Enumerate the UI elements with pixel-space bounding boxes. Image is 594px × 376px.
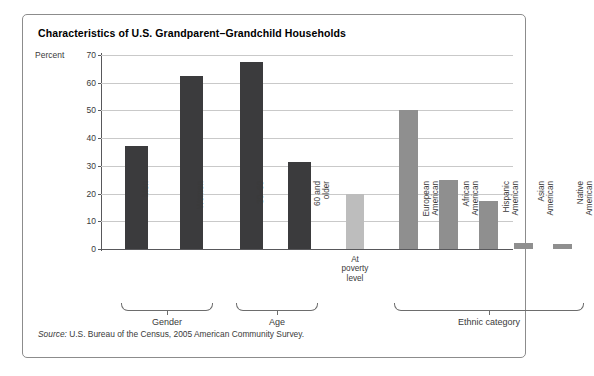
bracket-age bbox=[236, 303, 318, 311]
bar-label: EuropeanAmerican bbox=[422, 181, 441, 251]
group-label-ethnic-category: Ethnic category bbox=[458, 317, 520, 327]
bracket-nub bbox=[489, 310, 490, 315]
gridline-60: 60 bbox=[101, 83, 513, 84]
figure-title: Characteristics of U.S. Grandparent–Gran… bbox=[38, 27, 346, 39]
bar: 30–60 bbox=[240, 62, 263, 249]
y-axis-tickmark-30 bbox=[98, 166, 101, 167]
y-axis-tickmark-70 bbox=[98, 55, 101, 56]
bar-label: 30–60 bbox=[256, 181, 265, 251]
bar-label: HispanicAmerican bbox=[502, 181, 521, 251]
bracket-gender bbox=[121, 303, 213, 311]
bracket-nub bbox=[277, 310, 278, 315]
source-text: U.S. Bureau of the Census, 2005 American… bbox=[67, 329, 304, 339]
y-axis-tick-20: 20 bbox=[87, 189, 96, 199]
gridline-50: 50 bbox=[101, 110, 513, 111]
bar-label: AfricanAmerican bbox=[462, 181, 481, 251]
gridline-0: 0 bbox=[101, 249, 513, 250]
y-axis-tickmark-60 bbox=[98, 83, 101, 84]
bracket-nub bbox=[167, 310, 168, 315]
bar-label: Women bbox=[196, 181, 205, 251]
y-axis-tick-60: 60 bbox=[87, 78, 96, 88]
group-label-age: Age bbox=[269, 317, 285, 327]
group-label-gender: Gender bbox=[152, 317, 182, 327]
bar: AsianAmerican bbox=[514, 243, 533, 249]
gridline-70: 70 bbox=[101, 55, 513, 56]
bar: Atpovertylevel bbox=[346, 194, 364, 249]
y-axis-tick-30: 30 bbox=[87, 161, 96, 171]
y-axis-tickmark-50 bbox=[98, 110, 101, 111]
bar: AfricanAmerican bbox=[439, 180, 458, 249]
bar: HispanicAmerican bbox=[479, 201, 498, 250]
figure-panel: Characteristics of U.S. Grandparent–Gran… bbox=[22, 14, 526, 358]
bar-label: Atpovertylevel bbox=[329, 255, 381, 283]
bar-label: 60 andolder bbox=[313, 181, 332, 251]
bar: Women bbox=[180, 76, 203, 249]
bar: Men bbox=[125, 146, 148, 249]
bar: NativeAmerican bbox=[553, 244, 572, 249]
source-prefix: Source: bbox=[38, 329, 67, 339]
bar: 60 andolder bbox=[288, 162, 311, 249]
source-note: Source: U.S. Bureau of the Census, 2005 … bbox=[38, 329, 304, 339]
y-axis-tick-70: 70 bbox=[87, 50, 96, 60]
y-axis-tick-50: 50 bbox=[87, 105, 96, 115]
y-axis-tick-10: 10 bbox=[87, 216, 96, 226]
y-axis-tickmark-10 bbox=[98, 221, 101, 222]
bar-label: AsianAmerican bbox=[537, 181, 556, 251]
y-axis-title: Percent bbox=[35, 50, 64, 60]
gridline-40: 40 bbox=[101, 138, 513, 139]
bar-label: Men bbox=[141, 181, 150, 251]
bar: EuropeanAmerican bbox=[399, 110, 418, 249]
y-axis-tickmark-20 bbox=[98, 194, 101, 195]
y-axis-tick-40: 40 bbox=[87, 133, 96, 143]
y-axis-tickmark-0 bbox=[98, 249, 101, 250]
y-axis-tick-0: 0 bbox=[91, 244, 96, 254]
bar-label: NativeAmerican bbox=[576, 181, 594, 251]
bracket-ethnic-category bbox=[394, 303, 584, 311]
y-axis-tickmark-40 bbox=[98, 138, 101, 139]
plot-area: 706050403020100 MenWomen30–6060 andolder… bbox=[101, 56, 513, 250]
